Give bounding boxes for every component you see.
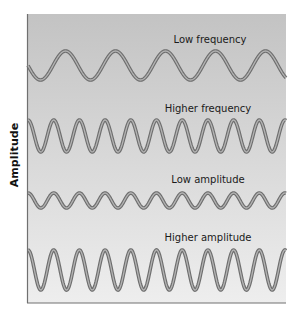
wave-diagram-canvas — [0, 0, 292, 313]
y-axis-label: Amplitude — [8, 123, 21, 188]
low-frequency-label: Low frequency — [173, 34, 246, 45]
higher-frequency-label: Higher frequency — [165, 103, 252, 114]
low-amplitude-label: Low amplitude — [171, 174, 244, 185]
wave-comparison-figure: Amplitude Low frequency Higher frequency… — [0, 0, 292, 313]
higher-amplitude-label: Higher amplitude — [165, 232, 252, 243]
